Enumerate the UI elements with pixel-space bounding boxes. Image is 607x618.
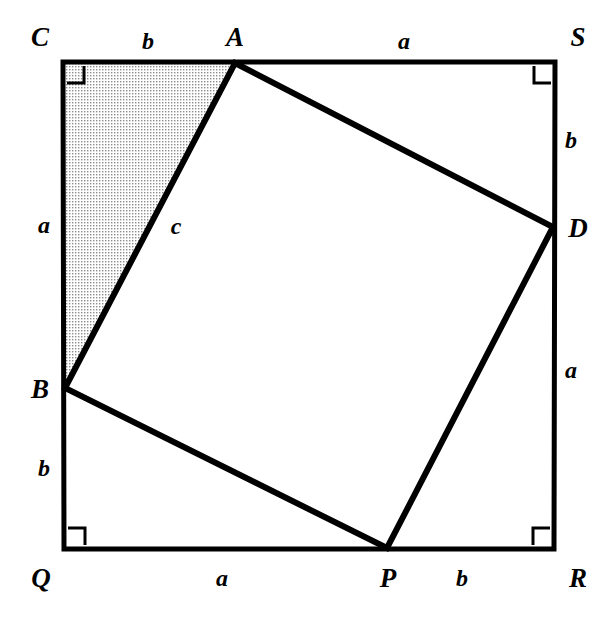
vertex-D-label: D [568, 215, 588, 242]
right-angle-marker-R [533, 528, 550, 545]
right-angle-marker-S [534, 66, 551, 83]
side-hypotenuse-c-label: c [171, 214, 182, 238]
vertex-C-label: C [31, 24, 49, 51]
pythagorean-theorem-figure: CASDBQPRbabababac [0, 0, 607, 618]
side-top-b-label: b [142, 29, 154, 53]
side-bottom-b-label: b [456, 566, 468, 590]
vertex-B-label: B [31, 376, 49, 403]
vertex-S-label: S [570, 24, 585, 51]
side-left-b-label: b [38, 456, 50, 480]
right-angle-marker-Q [68, 528, 85, 545]
side-left-a-label: a [38, 213, 50, 237]
geometry-canvas [0, 0, 607, 618]
side-bottom-a-label: a [216, 566, 228, 590]
side-top-a-label: a [398, 29, 410, 53]
side-right-a-label: a [565, 358, 577, 382]
vertex-A-label: A [226, 24, 244, 51]
vertex-Q-label: Q [31, 565, 51, 592]
side-right-b-label: b [565, 128, 577, 152]
vertex-R-label: R [569, 565, 587, 592]
vertex-P-label: P [380, 565, 397, 592]
